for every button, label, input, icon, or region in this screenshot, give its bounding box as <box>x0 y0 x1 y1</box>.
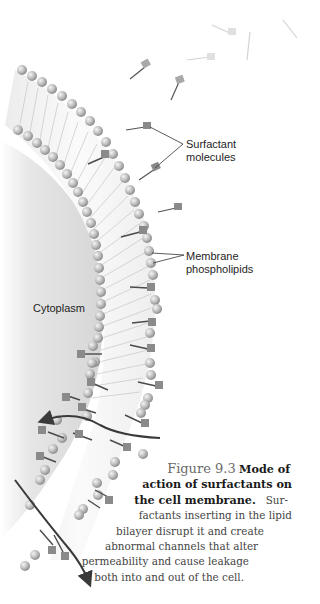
label-surfactant-molecules: Surfactant molecules <box>186 138 236 164</box>
label-surfactant-line1: Surfactant <box>186 138 236 150</box>
label-phospholipids-line1: Membrane <box>186 250 239 262</box>
caption-body-line6: both into and out of the cell. <box>62 570 244 585</box>
label-membrane-phospholipids: Membrane phospholipids <box>186 250 253 276</box>
free-surfactant-molecules <box>187 20 297 60</box>
caption-body-line2: factants inserting in the lipid <box>62 508 292 523</box>
caption-body-line3: bilayer disrupt it and create <box>62 524 264 539</box>
figure-title-line3: the cell membrane. <box>134 493 256 507</box>
figure-title-line1: Mode of <box>239 462 290 476</box>
leader-lines <box>150 127 184 263</box>
figure-number: Figure 9.3 <box>167 461 236 476</box>
caption-body-line1: Sur- <box>266 494 288 506</box>
figure-title-line2: action of surfactants on <box>142 477 292 491</box>
label-phospholipids-line2: phospholipids <box>186 263 253 275</box>
label-surfactant-line2: molecules <box>186 151 236 163</box>
label-cytoplasm: Cytoplasm <box>33 302 85 315</box>
label-cytoplasm-text: Cytoplasm <box>33 302 85 314</box>
caption-body-line5: permeability and cause leakage <box>62 554 249 569</box>
caption-body-line4: abnormal channels that alter <box>62 539 258 554</box>
figure-caption: Figure 9.3 Mode of action of surfactants… <box>62 461 292 585</box>
